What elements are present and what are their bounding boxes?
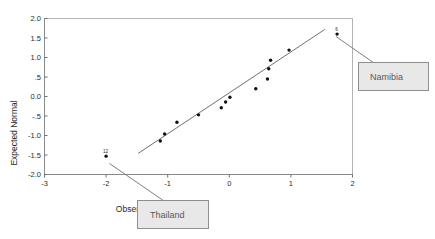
data-points-layer	[104, 32, 338, 157]
annotation-namibia[interactable]: Namibia	[359, 63, 429, 91]
x-axis-tick-labels: -3 -2 -1 0 1 2	[41, 179, 354, 188]
y-tick-label: 1.0	[31, 53, 41, 62]
y-tick-label: .5	[35, 73, 41, 82]
x-tick-label: -3	[41, 179, 48, 188]
y-tick-label: 2.0	[31, 14, 41, 23]
y-axis-tick-labels: 2.0 1.5 1.0 .5 0.0 -.5 -1.0 -1.5 -2.0	[28, 14, 41, 179]
data-point	[220, 106, 223, 109]
y-tick-label: 1.5	[31, 34, 41, 43]
y-tick-label: -1.0	[28, 131, 41, 140]
x-tick-label: -2	[103, 179, 110, 188]
data-point	[197, 113, 200, 116]
y-tick-label: -.5	[32, 112, 41, 121]
data-point	[269, 59, 272, 62]
x-tick-label: -1	[164, 179, 171, 188]
x-tick-label: 0	[227, 179, 231, 188]
annotation-thailand[interactable]: Thailand	[138, 201, 209, 229]
case-number-label: 6	[335, 27, 338, 32]
chart-canvas: 2.0 1.5 1.0 .5 0.0 -.5 -1.0 -1.5 -2.0 -3…	[0, 0, 435, 239]
data-point	[228, 96, 231, 99]
y-tick-label: -2.0	[28, 170, 41, 179]
namibia-callout-label: Namibia	[370, 72, 403, 82]
normal-reference-line	[138, 29, 325, 153]
data-point	[224, 100, 227, 103]
case-number-label: 12	[103, 149, 109, 154]
thailand-callout-label: Thailand	[150, 210, 185, 220]
data-point	[175, 121, 178, 124]
data-point	[335, 32, 338, 35]
thailand-leader-line	[110, 164, 165, 202]
y-tick-label: -1.5	[28, 151, 41, 160]
x-tick-label: 1	[289, 179, 293, 188]
data-point	[159, 139, 162, 142]
data-point	[254, 87, 257, 90]
qq-plot-figure: 2.0 1.5 1.0 .5 0.0 -.5 -1.0 -1.5 -2.0 -3…	[0, 0, 435, 239]
data-point	[287, 48, 290, 51]
x-tick-label: 2	[350, 179, 354, 188]
data-point	[267, 67, 270, 70]
case-labels-layer: 126	[103, 27, 338, 154]
y-axis-title: Expected Normal	[9, 100, 19, 165]
data-point	[163, 132, 166, 135]
namibia-leader-line	[336, 37, 374, 64]
data-point	[266, 77, 269, 80]
y-tick-label: 0.0	[31, 92, 41, 101]
data-point	[104, 154, 107, 157]
